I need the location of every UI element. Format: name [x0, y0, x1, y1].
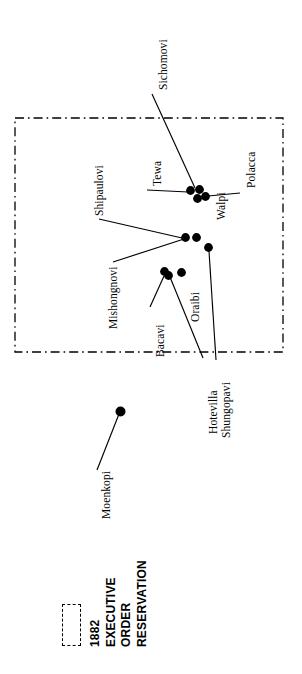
village-label-shungopavi: Shungopavi: [221, 382, 233, 438]
map-figure: Sichomovi Tewa Polacca Walpi Shipaulovi …: [0, 0, 302, 674]
legend-label-year: 1882: [89, 620, 101, 648]
leader-line-bacavi: [150, 276, 164, 307]
village-dot-shungopavi: [204, 243, 213, 252]
village-dot-walpi: [193, 194, 202, 203]
leader-line-moenkopi: [97, 414, 119, 470]
village-label-hotevilla: Hotevilla: [208, 390, 220, 434]
village-dot-moenkopi: [116, 407, 126, 417]
leader-line-mishongnovi: [113, 239, 184, 262]
leader-line-shipaulovi: [99, 219, 182, 238]
village-label-mishongnovi: Mishongnovi: [108, 267, 120, 329]
map-canvas: [0, 0, 302, 674]
legend-label-executive: EXECUTIVE: [105, 577, 117, 647]
village-dot-shipaulovi: [181, 233, 190, 242]
legend-swatch-reservation: [62, 604, 81, 646]
village-dot-mishongnovi: [192, 233, 201, 242]
village-label-sichomovi: Sichomovi: [158, 39, 170, 90]
legend-label-order: ORDER: [120, 603, 132, 647]
village-dot-hotevilla: [164, 271, 173, 280]
village-label-tewa: Tewa: [152, 161, 164, 186]
village-dot-oraibi: [177, 268, 186, 277]
leader-line-shungopavi: [209, 251, 216, 360]
village-label-oraibi: Oraibi: [190, 292, 202, 322]
village-label-shipaulovi: Shipaulovi: [94, 165, 106, 216]
village-dot-polacca: [201, 192, 210, 201]
reservation-boundary: [15, 118, 283, 352]
village-dot-tewa: [186, 186, 195, 195]
village-label-walpi: Walpi: [216, 192, 228, 220]
village-label-polacca: Polacca: [246, 152, 258, 188]
village-dot-sichomovi: [195, 185, 204, 194]
leader-line-tewa: [147, 190, 188, 192]
legend-label-reservation: RESERVATION: [136, 560, 148, 647]
village-label-moenkopi: Moenkopi: [101, 471, 113, 519]
village-label-bacavi: Bacavi: [155, 324, 167, 357]
